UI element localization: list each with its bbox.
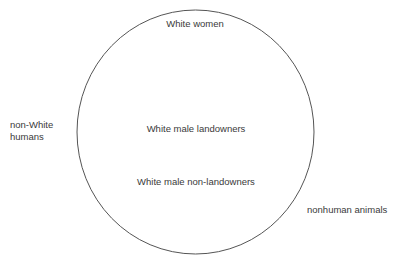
- label-non-white-humans-line1: non-White: [10, 119, 53, 131]
- label-white-male-landowners: White male landowners: [147, 123, 246, 135]
- label-white-women: White women: [166, 18, 224, 30]
- label-white-male-non-landowners: White male non-landowners: [137, 176, 255, 188]
- label-non-white-humans-line2: humans: [10, 131, 53, 143]
- label-nonhuman-animals: nonhuman animals: [307, 204, 387, 216]
- label-non-white-humans: non-White humans: [10, 119, 53, 143]
